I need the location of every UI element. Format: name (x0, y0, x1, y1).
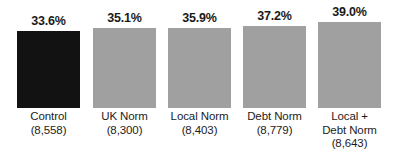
bar-group: 35.9%Local Norm(8,403) (168, 0, 231, 155)
bar-category-line: Local Norm (156, 110, 243, 124)
bar-rect (318, 22, 381, 108)
bar-value-label: 35.9% (168, 12, 231, 25)
bar-category-line: UK Norm (81, 110, 168, 124)
bar-rect (243, 26, 306, 108)
bar-chart: 33.6%Control(8,558)35.1%UK Norm(8,300)35… (0, 0, 395, 155)
bar-category-label: Debt Norm(8,779) (231, 110, 318, 137)
bar-category-label: Control(8,558) (5, 110, 92, 137)
bar-category-line: (8,779) (231, 124, 318, 138)
bar-category-line: Debt Norm (231, 110, 318, 124)
bar-category-label: Local Norm(8,403) (156, 110, 243, 137)
bar-category-line: (8,643) (306, 137, 393, 151)
bar-group: 33.6%Control(8,558) (17, 0, 80, 155)
bar-value-label: 35.1% (93, 12, 156, 25)
bar-category-line: Debt Norm (306, 124, 393, 138)
bar-rect (17, 31, 80, 108)
bar-value-label: 39.0% (318, 6, 381, 19)
bar-category-line: (8,558) (5, 124, 92, 138)
bar-category-line: Local + (306, 110, 393, 124)
bar-category-line: (8,403) (156, 124, 243, 138)
bar-rect (93, 28, 156, 108)
bar-rect (168, 28, 231, 108)
bar-category-label: Local +Debt Norm(8,643) (306, 110, 393, 151)
bar-category-line: Control (5, 110, 92, 124)
bar-group: 37.2%Debt Norm(8,779) (243, 0, 306, 155)
bar-value-label: 37.2% (243, 10, 306, 23)
bar-group: 35.1%UK Norm(8,300) (93, 0, 156, 155)
bar-group: 39.0%Local +Debt Norm(8,643) (318, 0, 381, 155)
bar-value-label: 33.6% (17, 15, 80, 28)
bar-category-line: (8,300) (81, 124, 168, 138)
bar-category-label: UK Norm(8,300) (81, 110, 168, 137)
